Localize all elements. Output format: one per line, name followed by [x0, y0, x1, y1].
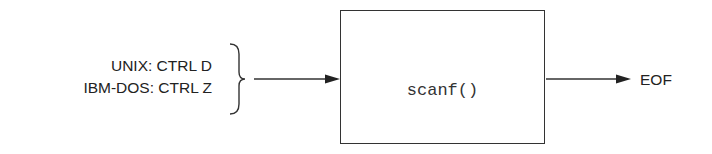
- scanf-label: scanf(): [341, 81, 544, 100]
- eof-output-label: EOF: [640, 72, 672, 88]
- output-arrowhead-icon: [616, 75, 631, 84]
- scanf-process-box: scanf(): [340, 10, 545, 144]
- curly-brace-icon: [230, 44, 245, 114]
- input-arrowhead-icon: [325, 75, 340, 84]
